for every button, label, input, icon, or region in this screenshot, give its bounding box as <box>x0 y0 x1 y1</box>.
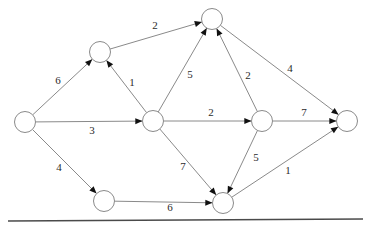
edge-arrowhead <box>135 118 142 124</box>
edge-arrowhead <box>331 127 339 133</box>
graph-edge <box>217 28 258 111</box>
graph-edge <box>106 60 146 112</box>
edge-arrowhead <box>205 200 212 206</box>
graph-edge <box>160 129 216 195</box>
node-left <box>15 112 36 133</box>
graph-edge <box>158 28 206 112</box>
node-right <box>337 111 358 132</box>
node-top <box>202 9 223 30</box>
edge-arrowhead <box>106 60 113 68</box>
edge-weight-label: 5 <box>187 68 193 80</box>
edge-arrowhead <box>331 108 339 115</box>
edge-arrowhead <box>201 28 207 36</box>
node-upper-left <box>90 42 111 63</box>
edge-arrowhead <box>194 21 202 27</box>
graph-edge <box>220 25 338 114</box>
edge-weight-label: 5 <box>253 151 259 163</box>
edges-layer <box>32 22 338 203</box>
edge-arrowhead <box>329 118 336 124</box>
edge-arrowhead <box>244 118 251 124</box>
edge-weight-label: 1 <box>129 76 135 88</box>
graph-edge <box>33 59 93 115</box>
edge-weight-label: 2 <box>245 69 251 81</box>
node-bottom-left <box>94 191 115 212</box>
edge-weight-label: 3 <box>89 124 95 136</box>
edge-weight-label: 6 <box>55 74 61 86</box>
graph-canvas: 63421527275461 <box>0 0 371 233</box>
graph-edge <box>232 127 338 197</box>
edge-weight-label: 1 <box>285 164 291 176</box>
edge-weight-label: 2 <box>208 106 214 118</box>
edge-weight-label: 2 <box>152 19 158 31</box>
graph-figure: 63421527275461 <box>0 0 371 233</box>
edge-weight-label: 7 <box>180 160 186 172</box>
edge-weight-label: 4 <box>56 161 62 173</box>
node-center <box>143 111 164 132</box>
edge-weight-label: 7 <box>301 106 307 118</box>
edge-weight-label: 4 <box>287 62 293 74</box>
node-right-middle <box>252 111 273 132</box>
graph-edge <box>32 129 96 193</box>
graph-edge <box>35 121 142 122</box>
graph-edge <box>114 201 212 203</box>
bottom-horizontal-rule <box>8 219 363 221</box>
node-bottom-right <box>213 193 234 214</box>
edge-weight-label: 6 <box>167 201 173 213</box>
